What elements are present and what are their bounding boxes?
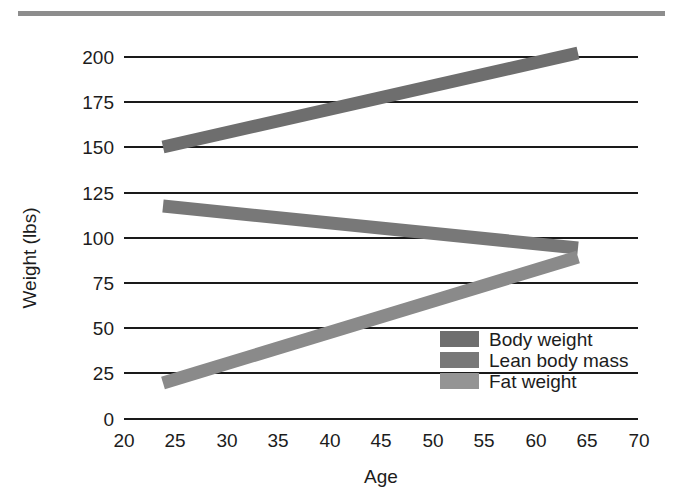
legend-label-lean-body-mass: Lean body mass (489, 350, 628, 371)
x-tick-label-35: 35 (267, 430, 288, 451)
x-tick-label-20: 20 (113, 430, 134, 451)
x-tick-label-60: 60 (525, 430, 546, 451)
chart-plot-area: 200 175 150 125 100 75 50 25 0 20 25 30 … (0, 0, 680, 500)
y-tick-label-75: 75 (93, 273, 114, 294)
y-tick-label-175: 175 (82, 92, 114, 113)
y-tick-label-150: 150 (82, 137, 114, 158)
legend-swatch-lean-body-mass (440, 352, 479, 368)
x-tick-label-55: 55 (473, 430, 494, 451)
series-line-lean-body-mass (163, 206, 578, 248)
legend-label-fat-weight: Fat weight (489, 371, 577, 392)
legend-swatch-body-weight (440, 331, 479, 347)
x-tick-label-65: 65 (576, 430, 597, 451)
x-axis-title: Age (364, 466, 398, 487)
y-tick-labels-group: 200 175 150 125 100 75 50 25 0 (82, 47, 114, 430)
legend-swatch-fat-weight (440, 373, 479, 389)
x-tick-label-45: 45 (370, 430, 391, 451)
chart-legend: Body weight Lean body mass Fat weight (440, 329, 628, 392)
y-axis-title: Weight (lbs) (19, 207, 40, 308)
x-tick-label-40: 40 (319, 430, 340, 451)
x-tick-label-70: 70 (628, 430, 649, 451)
series-line-body-weight (163, 53, 578, 147)
legend-label-body-weight: Body weight (489, 329, 593, 350)
y-tick-label-25: 25 (93, 363, 114, 384)
x-tick-labels-group: 20 25 30 35 40 45 50 55 60 65 70 (113, 430, 649, 451)
x-tick-label-25: 25 (164, 430, 185, 451)
y-tick-label-0: 0 (103, 409, 114, 430)
y-tick-label-100: 100 (82, 228, 114, 249)
y-tick-label-200: 200 (82, 47, 114, 68)
y-tick-label-50: 50 (93, 318, 114, 339)
y-tick-label-125: 125 (82, 183, 114, 204)
x-tick-label-50: 50 (422, 430, 443, 451)
chart-figure: 200 175 150 125 100 75 50 25 0 20 25 30 … (0, 0, 680, 500)
x-tick-label-30: 30 (216, 430, 237, 451)
